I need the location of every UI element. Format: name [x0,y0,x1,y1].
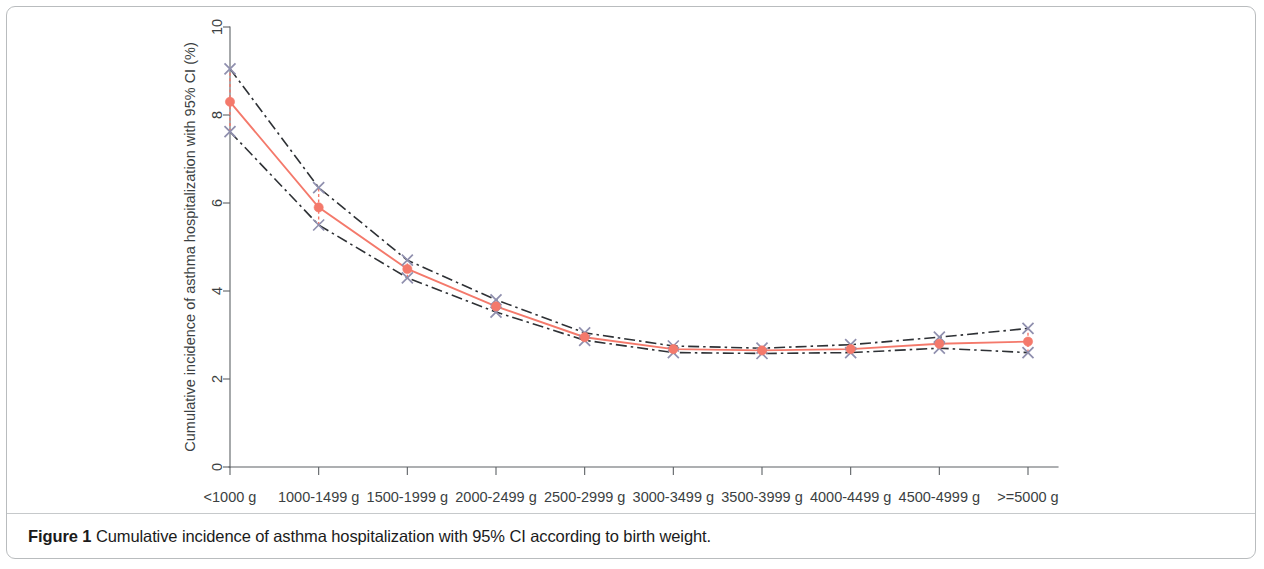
x-axis-tick-label: 4500-4999 g [899,489,980,505]
y-axis-title: Cumulative incidence of asthma hospitali… [182,42,198,451]
line-chart: 0246810Cumulative incidence of asthma ho… [0,0,1264,514]
chart-plot-area: 0246810Cumulative incidence of asthma ho… [0,0,1264,514]
y-axis-tick-label: 2 [209,375,225,383]
data-point [669,344,678,353]
ci-marker-x [313,182,324,193]
x-axis-tick-label: 1000-1499 g [278,489,359,505]
x-axis-tick-label: 1500-1999 g [367,489,448,505]
data-point [1023,337,1032,346]
figure-container: 0246810Cumulative incidence of asthma ho… [0,0,1264,569]
y-axis-tick-label: 4 [209,287,225,295]
x-axis-tick-label: 3000-3499 g [633,489,714,505]
data-point [491,302,500,311]
y-axis-tick-label: 0 [209,463,225,471]
x-axis-tick-label: 4000-4499 g [810,489,891,505]
ci-whiskers [230,69,1028,354]
x-axis-tick-label: 2000-2499 g [455,489,536,505]
ci-lower-line [230,132,1028,354]
x-axis-tick-label: <1000 g [204,489,257,505]
x-axis-tick-label: >=5000 g [997,489,1058,505]
ci-marker-x [1023,323,1034,334]
ci-markers [225,63,1034,359]
y-axis-tick-label: 8 [209,111,225,119]
y-axis: 0246810Cumulative incidence of asthma ho… [182,19,230,471]
data-point [403,264,412,273]
x-axis-tick-label: 2500-2999 g [544,489,625,505]
figure-caption: Figure 1 Cumulative incidence of asthma … [28,524,1228,548]
caption-divider [7,513,1255,514]
confidence-interval-bands [230,69,1028,354]
estimate-series [230,102,1028,351]
ci-marker-x [313,220,324,231]
x-axis-tick-label: 3500-3999 g [721,489,802,505]
data-point [314,203,323,212]
figure-caption-text: Cumulative incidence of asthma hospitali… [96,527,711,545]
figure-caption-label: Figure 1 [28,527,91,545]
ci-marker-x [402,272,413,283]
data-point [846,344,855,353]
x-axis: <1000 g1000-1499 g1500-1999 g2000-2499 g… [204,467,1059,514]
y-axis-tick-label: 6 [209,199,225,207]
data-point [580,333,589,342]
y-axis-tick-label: 10 [209,19,225,35]
data-point [757,346,766,355]
estimate-line [230,102,1028,351]
ci-upper-line [230,69,1028,348]
data-point [935,339,944,348]
data-point [225,97,234,106]
